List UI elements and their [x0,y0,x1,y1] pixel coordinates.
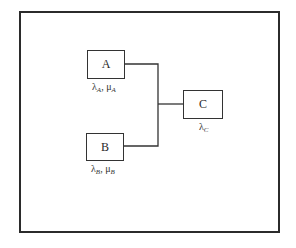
connector-lines [0,0,296,248]
connector-a-to-junction [125,64,158,104]
block-b-label: B [101,140,109,155]
block-a-rates: λA, μA [92,81,116,94]
block-b: B [86,133,124,161]
block-c-label: C [199,97,207,112]
block-a-label: A [102,57,111,72]
block-c-rates: λC [199,121,209,134]
block-a: A [87,50,125,79]
block-c: C [183,90,223,119]
block-b-rates: λB, μB [91,163,115,176]
connector-b-to-junction [124,104,158,146]
